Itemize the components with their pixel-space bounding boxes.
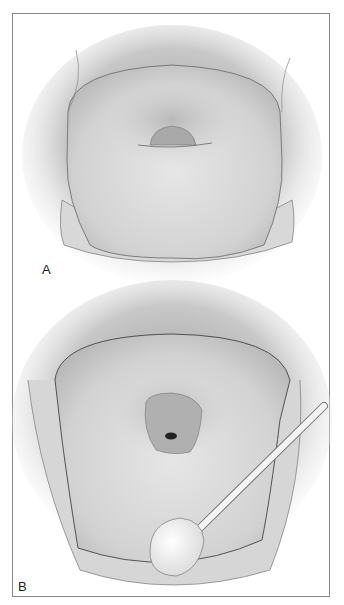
panel-label-b: B (18, 579, 27, 594)
panel-label-a: A (42, 262, 51, 277)
illustration (0, 0, 344, 605)
panel-a (22, 25, 322, 285)
panel-b (12, 280, 332, 585)
